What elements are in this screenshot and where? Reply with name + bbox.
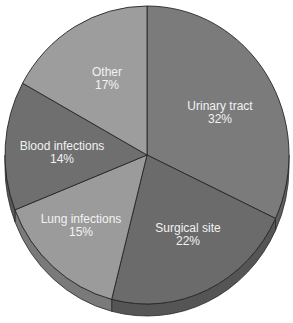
label-other: Other17% xyxy=(92,65,122,92)
pie-slices xyxy=(5,6,289,304)
pie-chart: Urinary tract32% Surgical site22% Lung i… xyxy=(0,0,293,323)
